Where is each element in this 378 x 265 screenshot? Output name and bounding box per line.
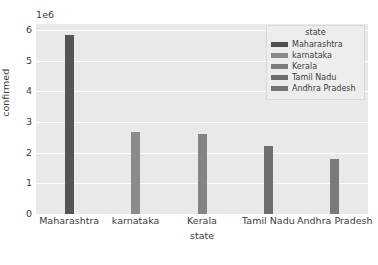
y-tick-label: 5 (2, 56, 32, 66)
y-tick-label: 2 (2, 148, 32, 158)
x-axis-label: state (36, 231, 368, 241)
legend-entry-label: Andhra Pradesh (292, 85, 356, 93)
legend-entry-label: Kerala (292, 63, 317, 71)
legend-swatch-icon (271, 64, 288, 69)
legend-entry-label: Maharashtra (292, 41, 343, 49)
legend-entry: Tamil Nadu (271, 73, 360, 83)
legend-entry: Kerala (271, 62, 360, 72)
legend-swatch-icon (271, 75, 288, 80)
legend: state MaharashtrakarnatakaKeralaTamil Na… (266, 25, 365, 100)
legend-entry-label: Tamil Nadu (292, 74, 336, 82)
bar (65, 35, 74, 214)
y-tick-label: 4 (2, 87, 32, 97)
legend-title: state (271, 29, 360, 38)
y-axis-ticks: 0123456 (0, 24, 32, 214)
legend-entry-label: karnataka (292, 52, 332, 60)
legend-entry: Andhra Pradesh (271, 84, 360, 94)
legend-entries: MaharashtrakarnatakaKeralaTamil NaduAndh… (271, 40, 360, 94)
bar (330, 159, 339, 214)
y-tick-label: 1 (2, 179, 32, 189)
legend-swatch-icon (271, 86, 288, 91)
legend-entry: karnataka (271, 51, 360, 61)
bar-chart-figure: 1e6 confirmed 0123456 Maharashtrakarnata… (0, 0, 378, 265)
bar (131, 132, 140, 214)
bar (198, 134, 207, 214)
x-tick-label: Andhra Pradesh (290, 216, 378, 226)
y-tick-label: 6 (2, 25, 32, 35)
bar (264, 146, 273, 214)
gridline (36, 122, 368, 123)
legend-swatch-icon (271, 53, 288, 58)
y-axis-offset-text: 1e6 (36, 9, 54, 20)
legend-entry: Maharashtra (271, 40, 360, 50)
y-tick-label: 3 (2, 117, 32, 127)
legend-swatch-icon (271, 42, 288, 47)
